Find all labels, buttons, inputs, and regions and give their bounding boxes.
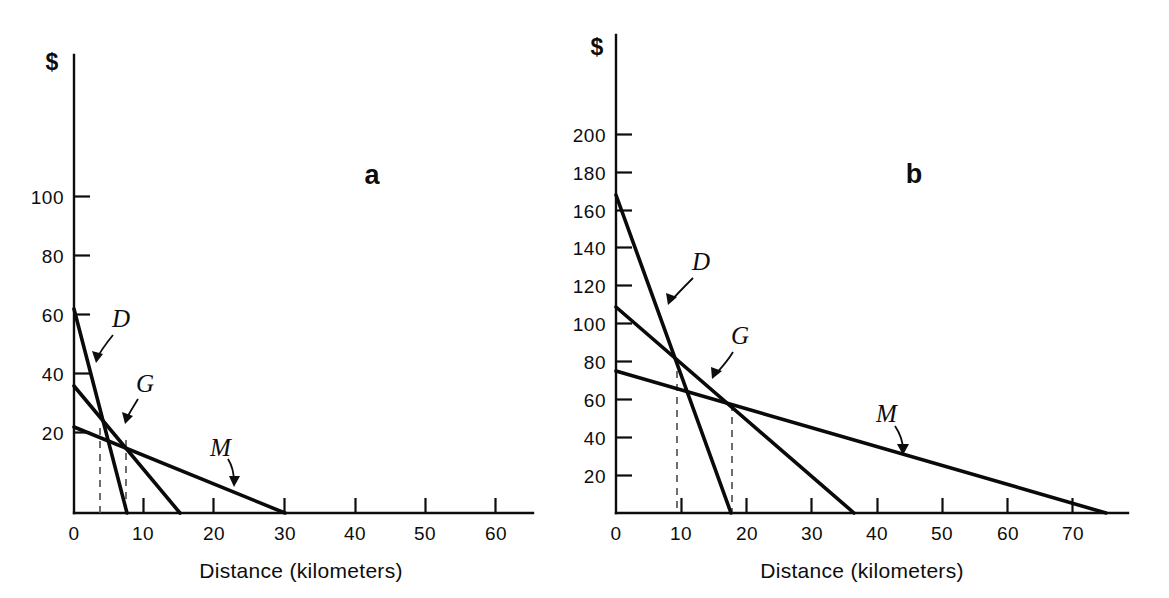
panel-b-ytick-160: 160 bbox=[573, 201, 606, 222]
panel-b: 20 40 60 80 100 120 140 160 180 200 $ 0 bbox=[573, 34, 1128, 582]
panel-a-ytick-100: 100 bbox=[31, 187, 64, 208]
panel-b-curve-M bbox=[616, 371, 1106, 513]
panel-b-x-axis-title: Distance (kilometers) bbox=[760, 559, 964, 582]
panel-b-ytick-140: 140 bbox=[573, 238, 606, 259]
panel-b-label-D: D bbox=[691, 248, 710, 275]
panel-a: 20 40 60 80 100 $ 0 10 20 30 40 50 60 bbox=[31, 49, 533, 582]
panel-b-x-ticks bbox=[682, 498, 1073, 513]
panel-b-label-G: G bbox=[731, 322, 749, 349]
panel-b-xtick-0: 0 bbox=[610, 523, 621, 544]
panel-b-currency-symbol: $ bbox=[591, 34, 604, 60]
panel-b-label-M: M bbox=[875, 400, 898, 427]
panel-a-label-G: G bbox=[136, 370, 154, 397]
panel-a-ytick-80: 80 bbox=[42, 246, 64, 267]
figure-svg: 20 40 60 80 100 $ 0 10 20 30 40 50 60 bbox=[0, 0, 1169, 598]
panel-b-xtick-60: 60 bbox=[997, 523, 1019, 544]
panel-b-xtick-40: 40 bbox=[866, 523, 888, 544]
panel-a-xtick-20: 20 bbox=[203, 523, 225, 544]
panel-b-ytick-100: 100 bbox=[573, 314, 606, 335]
panel-b-xtick-20: 20 bbox=[736, 523, 758, 544]
panel-a-xtick-10: 10 bbox=[132, 523, 154, 544]
panel-a-label-M: M bbox=[209, 434, 232, 461]
panel-b-xtick-10: 10 bbox=[670, 523, 692, 544]
panel-a-curve-M bbox=[74, 427, 285, 513]
panel-b-y-ticks bbox=[616, 135, 632, 476]
panel-b-xtick-50: 50 bbox=[931, 523, 953, 544]
panel-a-label-D: D bbox=[111, 305, 130, 332]
panel-a-xtick-60: 60 bbox=[485, 523, 507, 544]
panel-a-xtick-30: 30 bbox=[274, 523, 296, 544]
bid-rent-figure: 20 40 60 80 100 $ 0 10 20 30 40 50 60 bbox=[0, 0, 1169, 598]
panel-a-xtick-50: 50 bbox=[414, 523, 436, 544]
panel-b-ytick-60: 60 bbox=[584, 390, 606, 411]
panel-b-ytick-80: 80 bbox=[584, 352, 606, 373]
panel-b-arrowhead-D bbox=[666, 293, 677, 305]
panel-a-arrowhead-D bbox=[92, 351, 103, 363]
panel-a-ytick-40: 40 bbox=[42, 364, 64, 385]
panel-a-x-axis-title: Distance (kilometers) bbox=[199, 559, 403, 582]
panel-a-arrowhead-G bbox=[122, 412, 133, 424]
panel-b-xtick-70: 70 bbox=[1062, 523, 1084, 544]
panel-b-xtick-30: 30 bbox=[801, 523, 823, 544]
panel-a-xtick-40: 40 bbox=[344, 523, 366, 544]
panel-a-currency-symbol: $ bbox=[46, 49, 59, 75]
panel-a-arrowhead-M bbox=[229, 476, 240, 487]
panel-a-x-ticks bbox=[144, 498, 496, 513]
panel-a-ytick-20: 20 bbox=[42, 423, 64, 444]
panel-b-ytick-20: 20 bbox=[584, 466, 606, 487]
panel-b-ytick-180: 180 bbox=[573, 163, 606, 184]
panel-b-ytick-200: 200 bbox=[573, 125, 606, 146]
panel-a-letter: a bbox=[364, 160, 380, 190]
panel-b-curve-D bbox=[616, 195, 731, 513]
panel-b-ytick-40: 40 bbox=[584, 428, 606, 449]
panel-a-ytick-60: 60 bbox=[42, 305, 64, 326]
panel-a-xtick-0: 0 bbox=[68, 523, 79, 544]
panel-b-ytick-120: 120 bbox=[573, 276, 606, 297]
panel-b-letter: b bbox=[906, 159, 923, 189]
